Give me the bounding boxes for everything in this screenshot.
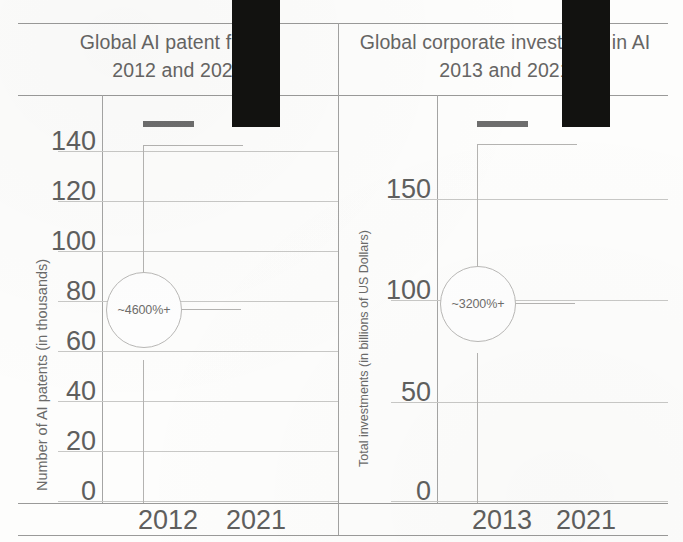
annotation-connector-right [181,309,241,310]
figure-canvas: Global AI patent filings 2012 and 2021 G… [0,0,683,542]
chart-panel-ai-patent-filings: 140 120 100 80 60 40 20 0 Number of AI p… [18,95,338,535]
gridline-60 [58,351,338,352]
ytick-label-0: 0 [18,478,96,505]
frame-rule-bottom [18,535,668,536]
growth-annotation-badge: ~4600%+ [106,272,182,348]
ytick-label-120: 120 [18,178,96,205]
gridline-140 [58,151,338,152]
panel-title-right-line2: 2013 and 2021 [342,57,668,85]
ytick-label-80: 80 [18,278,96,305]
gridline-20 [58,451,338,452]
gridline-0 [391,501,668,502]
bar-2013[interactable] [477,121,528,127]
ytick-label-0: 0 [351,478,431,505]
panel-title-right: Global corporate investment in AI 2013 a… [342,29,668,84]
gridline-150 [391,199,668,200]
ytick-label-150: 150 [351,176,431,203]
y-axis-line-right [437,95,438,503]
panel-title-left-line2: 2012 and 2021 [20,57,336,85]
ytick-label-100: 100 [18,228,96,255]
ytick-label-140: 140 [18,128,96,155]
ytick-label-40: 40 [18,378,96,405]
gridline-40 [58,401,338,402]
xtick-label-2021: 2021 [546,507,626,534]
growth-annotation-badge: ~3200%+ [440,266,516,342]
gridline-100 [391,300,668,301]
bar-2012[interactable] [143,121,194,127]
annotation-connector-top [143,145,243,146]
y-axis-title-left: Number of AI patents (in thousands) [34,259,50,491]
annotation-connector-lower [143,360,144,503]
chart-panel-corporate-investment: 150 100 50 0 Total investments (in billi… [339,95,668,535]
gridline-100 [58,251,338,252]
gridline-120 [58,201,338,202]
ytick-label-20: 20 [18,428,96,455]
y-axis-title-right: Total investments (in billions of US Dol… [357,230,371,467]
annotation-connector-right [515,303,575,304]
xtick-label-2012: 2012 [128,507,208,534]
gridline-80 [58,301,338,302]
ytick-label-60: 60 [18,328,96,355]
gridline-0 [58,501,338,502]
gridline-50 [391,402,668,403]
xtick-label-2021: 2021 [216,507,296,534]
annotation-connector-top [477,144,577,145]
annotation-connector-lower [477,353,478,503]
xtick-label-2013: 2013 [462,507,542,534]
bar-2021[interactable] [232,0,280,127]
panel-title-left: Global AI patent filings 2012 and 2021 [20,29,336,84]
bar-2021[interactable] [562,0,610,127]
y-axis-line-left [102,95,103,503]
